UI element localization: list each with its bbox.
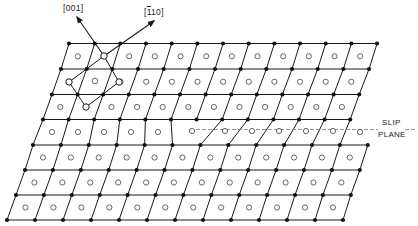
cell-edge [35,195,44,220]
arrow-001-icon [77,17,104,56]
filled-atom [220,117,224,121]
open-atom [116,180,121,185]
filled-atom [98,193,102,197]
cell-edge [350,95,359,120]
open-atom [88,180,93,185]
filled-atom [195,117,199,121]
lattice-diagram [0,0,418,226]
dislocation-cell-edge [284,120,299,146]
cell-edge [145,95,154,120]
filled-atom [143,143,147,147]
open-atom [124,155,129,160]
label-direction-1-bar-10: [110] [144,8,164,17]
open-atom [144,79,149,84]
open-atom [330,128,335,133]
cell-edge [241,44,249,70]
filled-atom [143,117,147,121]
cell-edge [171,95,180,120]
filled-atom [254,143,258,147]
filled-atom [310,143,314,147]
open-atom [49,129,54,134]
open-atom [302,205,307,210]
cell-edge [128,170,137,195]
cell-edge [267,170,276,195]
filled-atom [290,67,294,71]
cell-edge [69,95,78,120]
filled-atom [89,218,93,222]
open-atom [297,79,302,84]
filled-atom [221,41,225,45]
filled-atom [367,67,371,71]
dislocation-cell-edge [145,120,146,146]
filled-atom [246,168,250,172]
filled-atom [70,193,74,197]
cell-edge [273,95,282,120]
filled-atom [170,143,174,147]
open-atom [23,205,28,210]
cell-edge [192,145,200,170]
filled-atom [79,168,83,172]
open-atom [178,54,183,59]
cell-edge [72,170,81,195]
filled-atom [190,168,194,172]
filled-atom [330,168,334,172]
filled-atom [162,67,166,71]
filled-atom [42,193,46,197]
filled-atom [181,193,185,197]
cell-edge [299,95,308,120]
open-atom [246,205,251,210]
cell-edge [147,195,156,220]
open-atom [339,104,344,109]
unit-cell-center-atom [92,78,98,84]
cell-edge [129,69,138,95]
cell-edge [343,195,351,220]
filled-atom [218,168,222,172]
open-atom [255,54,260,59]
label-rest: 10] [151,7,164,17]
cell-edge [231,69,240,95]
cell-edge [222,95,231,120]
cell-edge [156,170,165,195]
open-atom [186,104,191,109]
filled-atom [209,193,213,197]
filled-atom [169,117,173,121]
open-atom [79,205,84,210]
cell-edge [295,170,304,195]
filled-atom [226,143,230,147]
filled-atom [255,92,259,96]
filled-atom [144,41,148,45]
filled-atom [101,92,105,96]
filled-atom [204,92,208,96]
cell-edge [164,44,172,70]
cell-edge [318,44,326,70]
open-atom [169,79,174,84]
open-atom [96,155,101,160]
open-atom [135,205,140,210]
cell-edge [183,170,192,195]
cell-edge [197,95,206,120]
open-atom [339,180,344,185]
open-atom [349,79,354,84]
open-circle-atoms [23,54,363,210]
open-atom [204,54,209,59]
filled-atom [280,92,284,96]
filled-atom [201,218,205,222]
open-atom [255,180,260,185]
cell-edge [334,69,344,95]
cell-edge [175,195,183,220]
open-atom [68,155,73,160]
filled-atom [348,117,352,121]
cell-edge [87,44,95,70]
open-atom [288,104,293,109]
open-atom [319,155,324,160]
open-atom [199,180,204,185]
filled-atom [187,67,191,71]
filled-atom [306,92,310,96]
open-atom [274,205,279,210]
filled-atom [118,41,122,45]
cell-edge [81,145,89,170]
filled-atom [170,41,174,45]
cell-edge [53,145,61,170]
filled-atom [127,92,131,96]
dislocation-cell-edge [340,120,350,146]
